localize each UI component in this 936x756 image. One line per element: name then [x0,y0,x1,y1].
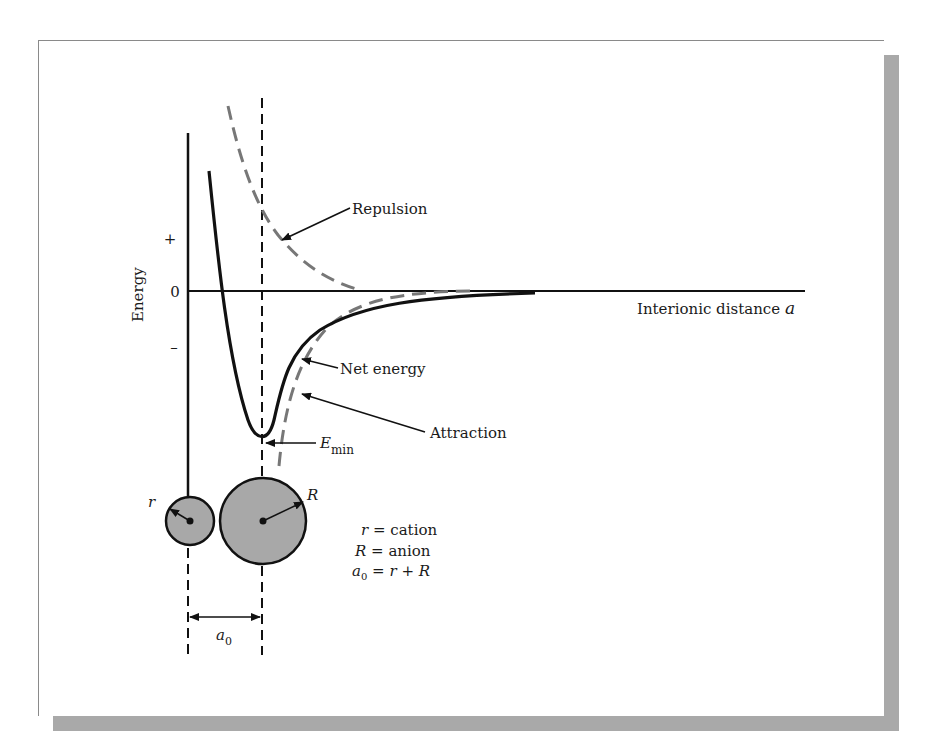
tick-plus: + [164,230,177,248]
net-energy-pointer [302,359,338,368]
attraction-label: Attraction [429,424,507,442]
legend-anion: R = anion [354,542,431,560]
repulsion-pointer [282,208,350,240]
repulsion-curve [228,106,360,290]
attraction-pointer [302,394,425,432]
cation-r-label: r [148,493,156,511]
tick-minus: – [170,338,178,356]
repulsion-label: Repulsion [352,200,428,218]
tick-zero: 0 [170,283,180,301]
x-axis-label: Interionic distance a [637,298,795,318]
net-energy-label: Net energy [340,360,426,378]
legend-a0: a0 = r + R [352,562,430,582]
y-axis-label: Energy [129,267,147,322]
legend-cation: r = cation [361,521,437,539]
anion-R-label: R [306,486,318,504]
energy-diagram: Repulsion Net energy Attraction Emin Int… [0,0,936,756]
emin-label: Emin [319,434,354,457]
a0-label: a0 [216,626,232,648]
